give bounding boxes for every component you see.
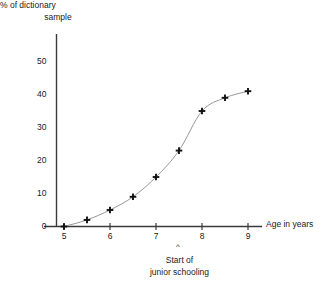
data-point-marker	[61, 223, 68, 230]
plot-area	[0, 0, 335, 299]
x-axis-tick-label: 5	[56, 231, 72, 241]
data-point-marker	[107, 207, 114, 214]
dictionary-sample-line-chart: % of dictionary sample Age in years ^ St…	[0, 0, 335, 299]
y-axis-tick-label: 30	[25, 122, 47, 132]
axis-lines	[44, 34, 262, 227]
data-point-marker	[245, 88, 252, 95]
y-axis-tick-label: 40	[25, 89, 47, 99]
x-axis-tick-label: 9	[240, 231, 256, 241]
data-point-marker	[84, 217, 91, 224]
y-axis-tick-label: 0	[25, 221, 47, 231]
data-point-marker	[176, 147, 183, 154]
x-axis-tick-label: 8	[194, 231, 210, 241]
y-axis-tick-label: 20	[25, 155, 47, 165]
data-point-markers	[61, 88, 252, 230]
y-axis-tick-label: 50	[25, 56, 47, 66]
y-axis-tick-label: 10	[25, 188, 47, 198]
data-point-marker	[130, 194, 137, 201]
x-axis-tick-label: 7	[148, 231, 164, 241]
data-series-line	[64, 91, 248, 226]
series-path	[64, 91, 248, 226]
x-axis-tick-label: 6	[102, 231, 118, 241]
data-point-marker	[222, 95, 229, 102]
